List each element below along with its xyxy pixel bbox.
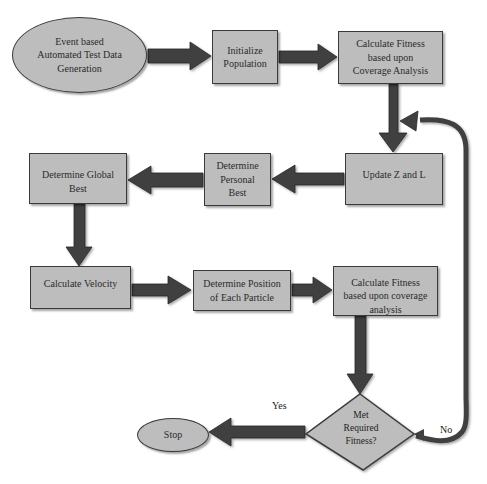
- arrow-init-to-fitness1: [279, 44, 337, 70]
- stop-node: Stop: [137, 418, 209, 452]
- calculate-velocity-node: Calculate Velocity: [30, 266, 131, 309]
- determine-position-label: Determine Position of Each Particle: [200, 277, 284, 304]
- determine-personal-best-label: Determine Personal Best: [213, 159, 263, 200]
- determine-personal-best-node: Determine Personal Best: [204, 153, 271, 206]
- yes-edge-label: Yes: [272, 400, 287, 411]
- arrow-personal-to-global: [128, 166, 203, 194]
- calculate-velocity-label: Calculate Velocity: [44, 277, 117, 291]
- arrow-velocity-to-position: [132, 276, 191, 304]
- decision-line-3: Fitness?: [330, 435, 392, 448]
- determine-position-node: Determine Position of Each Particle: [193, 270, 291, 311]
- arrow-decision-to-stop: [209, 418, 305, 446]
- flowchart-canvas: Event based Automated Test Data Generati…: [0, 0, 487, 484]
- calculate-fitness-coverage-label: Calculate Fitness based upon Coverage An…: [348, 37, 433, 78]
- decision-line-1: Met: [330, 409, 392, 422]
- start-node: Event based Automated Test Data Generati…: [12, 17, 147, 93]
- calculate-fitness-coverage-2-node: Calculate Fitness based upon coverage an…: [333, 266, 438, 316]
- decision-line-2: Required: [330, 422, 392, 435]
- arrow-global-to-velocity: [66, 204, 92, 266]
- calculate-fitness-coverage-2-label: Calculate Fitness based upon coverage an…: [340, 276, 432, 316]
- initialize-population-node: Initialize Population: [212, 30, 278, 84]
- no-loop-arrowhead: [400, 111, 418, 131]
- arrow-start-to-init: [148, 42, 211, 70]
- update-z-l-label: Update Z and L: [362, 168, 425, 182]
- update-z-l-node: Update Z and L: [345, 153, 443, 205]
- decision-label: Met Required Fitness?: [330, 409, 392, 447]
- arrow-fitness2-to-decision: [347, 316, 373, 394]
- calculate-fitness-coverage-node: Calculate Fitness based upon Coverage An…: [338, 31, 443, 84]
- determine-global-best-node: Determine Global Best: [29, 153, 127, 204]
- stop-node-label: Stop: [164, 428, 182, 442]
- initialize-population-label: Initialize Population: [217, 44, 273, 71]
- start-node-label: Event based Automated Test Data Generati…: [35, 35, 125, 76]
- determine-global-best-label: Determine Global Best: [38, 168, 118, 195]
- arrow-fitness1-to-update: [379, 84, 407, 152]
- arrow-position-to-fitness2: [292, 277, 332, 303]
- no-edge-label: No: [440, 424, 452, 435]
- arrow-update-to-personal: [272, 165, 344, 193]
